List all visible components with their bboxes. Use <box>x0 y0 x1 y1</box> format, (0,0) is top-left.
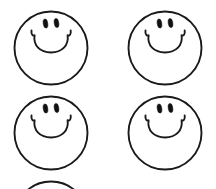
smiley-face <box>129 12 202 85</box>
smiley-face <box>15 97 88 170</box>
smiley-face <box>15 12 88 85</box>
face-outline-circle <box>15 12 88 85</box>
face-outline-circle <box>129 97 202 170</box>
artwork-canvas <box>0 0 216 189</box>
face-outline-circle <box>15 97 88 170</box>
smiley-faces-illustration <box>0 0 216 189</box>
smiley-face <box>129 97 202 170</box>
face-outline-circle <box>129 12 202 85</box>
